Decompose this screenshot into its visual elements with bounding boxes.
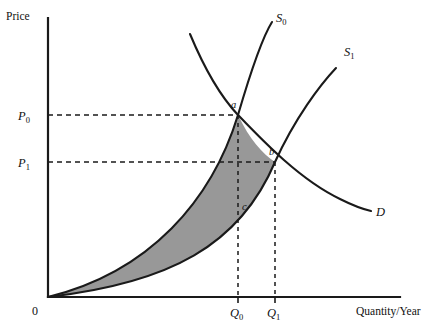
shaded-region-between-supply-curves [48,115,275,297]
x-tick-label-q0-sub: 0 [239,312,243,322]
point-label-b: b [269,146,274,157]
point-label-a: a [231,99,236,110]
supply-curve-s1 [48,68,336,297]
x-tick-label-q1-sub: 1 [276,312,280,322]
x-tick-label-q1: Q1 [267,306,280,322]
y-tick-label-p1-sub: 1 [26,162,30,172]
curve-label-s1-sub: 1 [350,51,354,61]
y-tick-label-p1-text: P [17,156,26,170]
point-label-c: c [242,201,247,212]
x-axis-title: Quantity/Year [356,305,421,318]
curve-label-d: D [375,205,385,219]
y-axis-title: Price [6,10,30,22]
x-tick-label-q0-text: Q [230,306,239,320]
x-tick-label-q1-text: Q [267,306,276,320]
supply-demand-chart: Price Quantity/Year 0 P0 P1 Q0 Q1 S0 S1 … [0,0,433,327]
y-tick-label-p0-sub: 0 [26,115,30,125]
origin-label: 0 [32,304,38,318]
curve-label-s0-sub: 0 [282,17,286,27]
y-tick-label-p0: P0 [17,109,30,125]
y-tick-label-p1: P1 [17,156,30,172]
curve-label-s1: S1 [344,45,355,61]
curve-label-s0: S0 [276,11,287,27]
y-tick-label-p0-text: P [17,109,26,123]
chart-canvas: Price Quantity/Year 0 P0 P1 Q0 Q1 S0 S1 … [0,0,433,327]
x-tick-label-q0: Q0 [230,306,243,322]
